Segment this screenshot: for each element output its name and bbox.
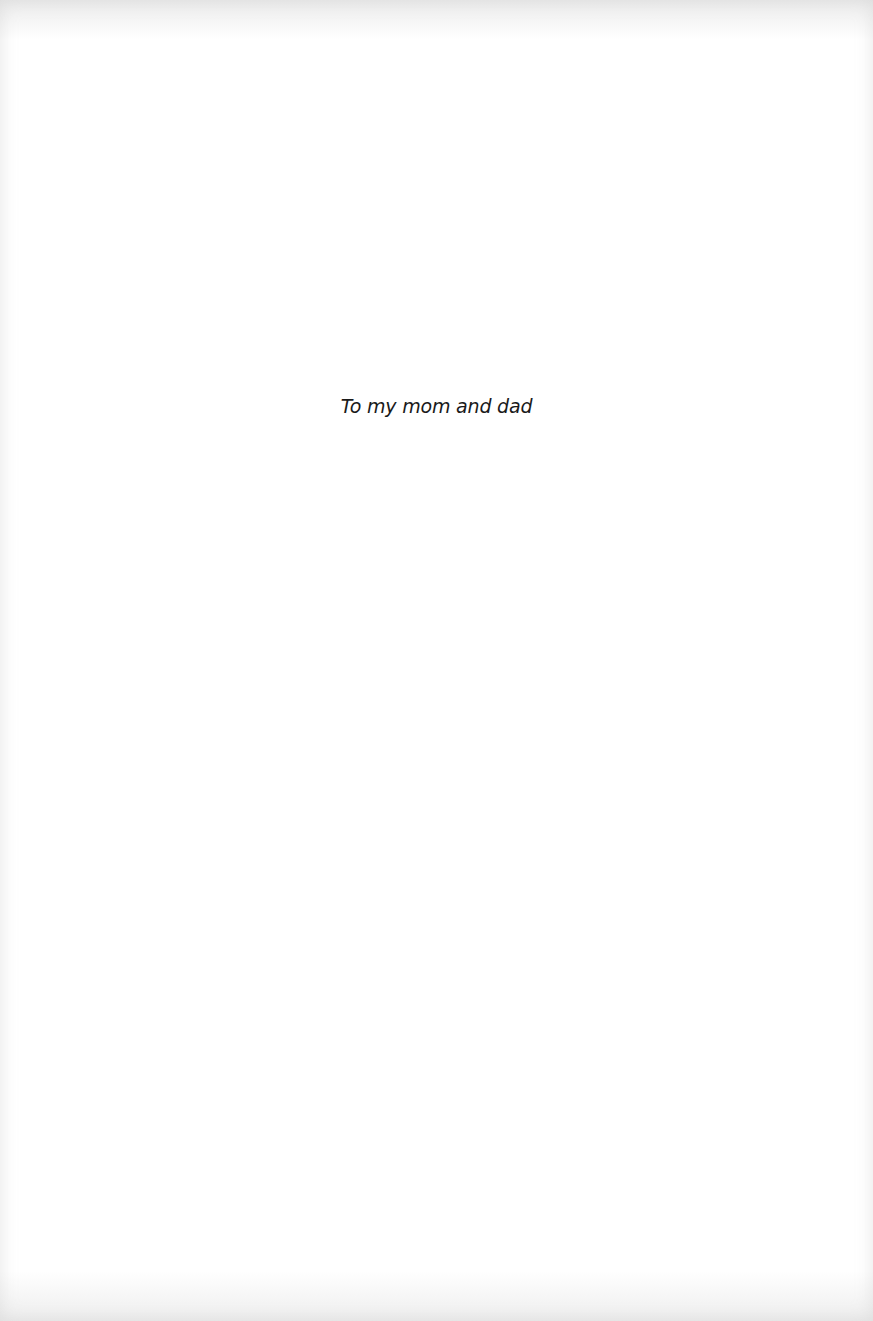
page-edge-shadow-bottom	[0, 1271, 873, 1321]
book-page: To my mom and dad	[0, 0, 873, 1321]
page-edge-shadow-top	[0, 0, 873, 40]
dedication-text: To my mom and dad	[0, 395, 873, 417]
